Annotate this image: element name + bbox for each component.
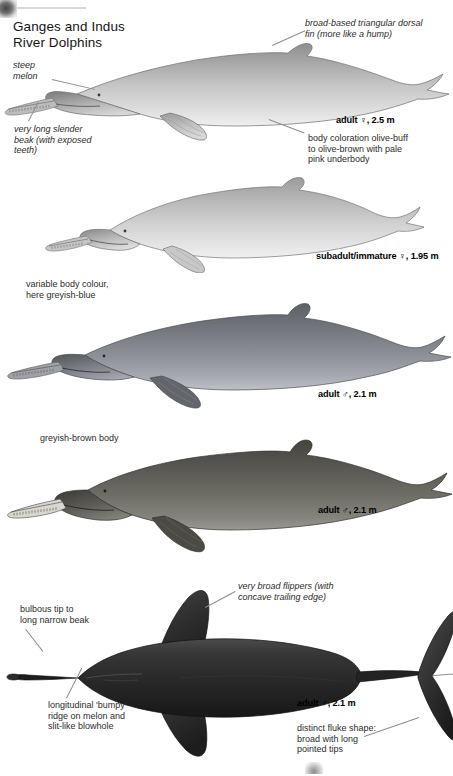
annotation-greyish-brown: greyish-brown body [40, 433, 119, 444]
annotation-broad-flippers: very broad flippers (with concave traili… [238, 581, 334, 602]
annotation-bulbous-tip: bulbous tip to long narrow beak [20, 604, 89, 625]
annotation-fluke-shape: distinct fluke shape: broad with long po… [297, 723, 376, 755]
scan-bottom-artifact [305, 762, 323, 774]
annotation-steep-melon: steep melon [13, 60, 38, 81]
specimen-4-caption: adult ♂, 2.1 m [318, 505, 377, 515]
specimen-4-illustration [0, 430, 453, 555]
annotation-dorsal-fin: broad-based triangular dorsal fin (more … [305, 18, 423, 39]
annotation-long-beak: very long slender beak (with exposed tee… [14, 124, 92, 156]
specimen-1-caption: adult ♀, 2.5 m [336, 115, 395, 125]
specimen-3-caption: adult ♂, 2.1 m [318, 389, 377, 399]
specimen-2-caption: subadult/immature ♀, 1.95 m [316, 251, 439, 261]
illustration-page: Ganges and Indus River Dolphins [0, 0, 453, 776]
scan-top-rule [16, 7, 86, 9]
annotation-variable-colour: variable body colour, here greyish-blue [26, 279, 109, 300]
scan-edge-artifact [0, 0, 17, 18]
annotation-bumpy-ridge: longitudinal 'bumpy' ridge on melon and … [48, 700, 127, 732]
specimen-5-caption: adult ♂, 2.1 m [297, 698, 356, 708]
specimen-3-illustration [0, 292, 453, 412]
